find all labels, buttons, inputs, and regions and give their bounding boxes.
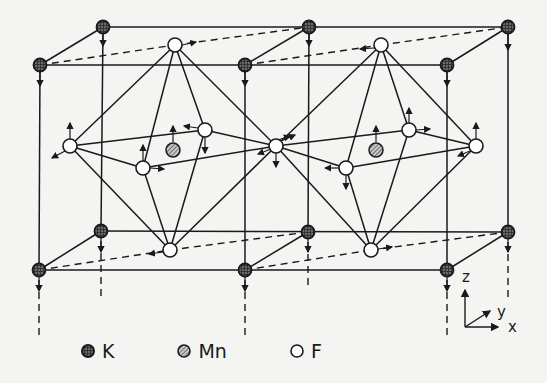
k-atom — [34, 59, 47, 72]
legend-item-mn: Mn — [176, 340, 226, 362]
k-atom — [502, 21, 515, 34]
f-atom — [269, 139, 283, 153]
legend-label-f: F — [311, 340, 322, 362]
f-atom — [198, 123, 212, 137]
dashed-lines — [39, 27, 508, 335]
k-atom — [441, 264, 454, 277]
mn-atom — [166, 143, 180, 157]
f-atom — [469, 139, 483, 153]
k-atom-icon — [80, 343, 96, 359]
k-atom — [239, 264, 252, 277]
f-atom — [374, 38, 388, 52]
kmnf3-crystal-diagram — [0, 0, 547, 383]
k-atom — [302, 226, 315, 239]
k-atom — [502, 226, 515, 239]
f-atom-icon — [289, 343, 305, 359]
mn-atom-icon — [176, 343, 192, 359]
axis-label-x: x — [508, 318, 517, 336]
f-atom — [339, 161, 353, 175]
axis-label-y: y — [497, 303, 506, 321]
k-atom — [239, 59, 252, 72]
k-atom — [95, 225, 108, 238]
axis-label-z: z — [462, 268, 470, 286]
f-atom — [136, 161, 150, 175]
axes-icon — [465, 290, 498, 327]
f-atom — [402, 123, 416, 137]
k-atom — [303, 21, 316, 34]
legend-item-f: F — [289, 340, 322, 362]
legend-label-mn: Mn — [198, 340, 226, 362]
legend-label-k: K — [102, 340, 114, 362]
k-atom — [97, 21, 110, 34]
f-atoms — [63, 38, 483, 257]
k-atom — [441, 59, 454, 72]
f-atom — [163, 243, 177, 257]
mn-atom — [369, 143, 383, 157]
f-atom — [63, 139, 77, 153]
f-atom — [168, 38, 182, 52]
legend: K Mn F — [80, 340, 384, 362]
legend-item-k: K — [80, 340, 114, 362]
f-atom — [364, 243, 378, 257]
k-atom — [33, 264, 46, 277]
